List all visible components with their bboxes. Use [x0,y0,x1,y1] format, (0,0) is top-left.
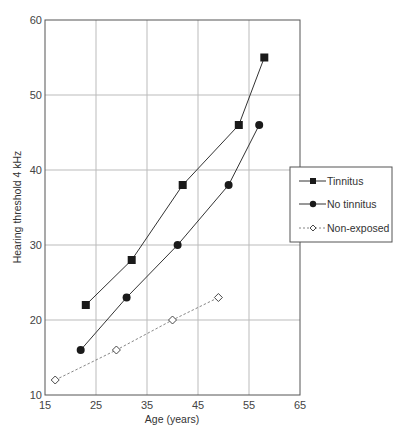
y-tick-label: 50 [30,89,42,101]
diamond-marker-icon [214,294,222,302]
x-axis-label: Age (years) [145,413,199,425]
legend-label: Non-exposed [327,222,390,234]
diamond-marker-icon [169,316,177,324]
x-tick-label: 65 [294,399,306,411]
circle-marker-icon [255,121,263,129]
data-series [51,54,268,385]
y-tick-label: 60 [30,14,42,26]
y-tick-label: 30 [30,239,42,251]
y-axis-ticks: 102030405060 [30,14,42,401]
legend-label: Tinnitus [327,175,363,187]
series-line [81,125,260,350]
circle-marker-icon [77,346,85,354]
square-marker-icon [260,54,268,62]
chart: 102030405060 152535455565 Age (years) He… [0,0,405,438]
plot-frame [45,20,300,395]
grid-lines [45,20,300,395]
x-tick-label: 35 [141,399,153,411]
circle-marker-icon [123,294,131,302]
y-axis-label: Hearing threshold 4 kHz [11,151,23,264]
circle-marker-icon [310,201,316,207]
x-tick-label: 45 [192,399,204,411]
diamond-marker-icon [112,346,120,354]
y-tick-label: 20 [30,314,42,326]
legend-label: No tinnitus [327,198,377,210]
square-marker-icon [310,178,316,184]
x-axis-ticks: 152535455565 [39,399,306,411]
series-tinnitus [82,54,268,310]
x-tick-label: 55 [243,399,255,411]
square-marker-icon [82,301,90,309]
x-tick-label: 15 [39,399,51,411]
square-marker-icon [235,121,243,129]
series-non-exposed [51,294,222,385]
circle-marker-icon [174,241,182,249]
legend: Tinnitus No tinnitus Non-exposed [290,167,392,242]
diamond-marker-icon [51,376,59,384]
y-tick-label: 40 [30,164,42,176]
square-marker-icon [128,256,136,264]
circle-marker-icon [225,181,233,189]
square-marker-icon [179,181,187,189]
series-line [55,298,218,381]
x-tick-label: 25 [90,399,102,411]
